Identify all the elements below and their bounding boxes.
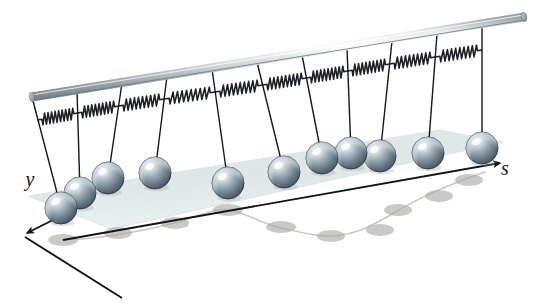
- coupling-spring: [119, 94, 165, 111]
- coupling-spring: [215, 80, 262, 97]
- pendulum-bob: [466, 132, 498, 166]
- bob-rim-light: [306, 142, 338, 174]
- shadow-dot: [384, 204, 412, 216]
- coupling-spring: [78, 101, 119, 118]
- y-axis-label: y: [24, 168, 35, 191]
- coupling-spring: [435, 45, 482, 62]
- bob-rim-light: [92, 162, 124, 194]
- pendulum-bob: [412, 137, 444, 171]
- bob-rim-light: [364, 140, 396, 172]
- shadow-dot: [266, 221, 296, 233]
- shadow-dot: [366, 224, 394, 236]
- shadow-dot: [455, 174, 483, 186]
- shadow-dot: [317, 230, 345, 242]
- bob-rim-light: [335, 137, 367, 169]
- coupling-spring: [263, 73, 307, 90]
- depth-axis-line: [25, 237, 122, 298]
- coupling-spring: [38, 108, 78, 125]
- bob-rim-light: [268, 156, 300, 188]
- bob-rim-light: [139, 157, 171, 189]
- coupling-spring: [390, 52, 436, 69]
- pendulum-wave-figure: y s: [0, 0, 533, 305]
- s-axis-label: s: [501, 157, 509, 179]
- support-rod-shade: [32, 20, 524, 100]
- coupling-spring: [348, 59, 390, 76]
- pendulum-string: [32, 97, 61, 208]
- bob-rim-light: [212, 167, 244, 199]
- bob-rim-light: [412, 137, 444, 169]
- coupling-spring: [306, 66, 347, 83]
- bob-rim-light: [45, 192, 77, 224]
- diagram-canvas: y s: [0, 0, 533, 305]
- bob-rim-light: [466, 132, 498, 164]
- shadow-dot: [425, 190, 453, 202]
- coupling-spring: [164, 87, 215, 104]
